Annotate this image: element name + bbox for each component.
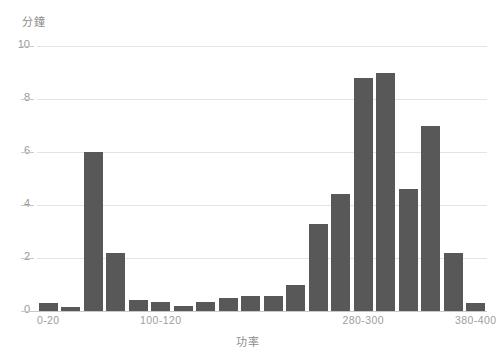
y-axis-tick-label: 4 <box>4 197 30 209</box>
x-axis-tick-label: 100-120 <box>140 314 181 326</box>
bar <box>331 194 350 311</box>
y-axis-tick-mark <box>21 311 34 312</box>
bar <box>39 303 58 311</box>
x-axis-tick-label: 280-300 <box>343 314 384 326</box>
x-axis-tick-label: 380-400 <box>455 314 496 326</box>
x-axis-tick-label: 0-20 <box>37 314 60 326</box>
y-axis-title: 分鐘 <box>22 13 45 29</box>
y-axis-tick-label: 6 <box>4 144 30 156</box>
bar <box>264 296 283 311</box>
y-axis-tick-label: 2 <box>4 250 30 262</box>
bar <box>309 224 328 311</box>
y-axis-tick-label: 8 <box>4 91 30 103</box>
y-axis-tick-mark <box>21 205 34 206</box>
bar <box>399 189 418 311</box>
bar <box>84 152 103 311</box>
bar <box>444 253 463 311</box>
bar <box>129 300 148 311</box>
y-axis-tick-mark <box>21 152 34 153</box>
y-axis-tick-mark <box>21 46 34 47</box>
bar <box>376 73 395 312</box>
bar <box>241 296 260 311</box>
y-axis-tick-label: 0 <box>4 303 30 315</box>
bar <box>151 302 170 311</box>
y-axis-tick-mark <box>21 258 34 259</box>
bar <box>106 253 125 311</box>
y-axis-tick-label: 10 <box>4 38 30 50</box>
x-axis-line <box>32 311 487 312</box>
bar-series <box>37 46 487 311</box>
plot-area <box>37 46 487 311</box>
x-axis-title: 功率 <box>0 333 495 349</box>
bar <box>219 298 238 311</box>
bar <box>421 126 440 312</box>
bar <box>354 78 373 311</box>
bar <box>286 285 305 312</box>
bar <box>466 303 485 311</box>
y-axis-tick-mark <box>21 99 34 100</box>
bar <box>196 302 215 311</box>
